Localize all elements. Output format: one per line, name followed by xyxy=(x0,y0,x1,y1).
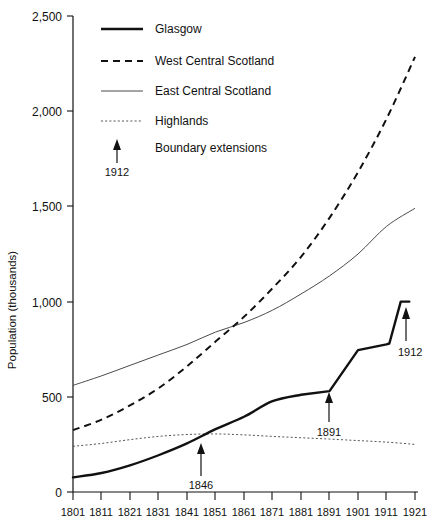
annotation-1846: 1846 xyxy=(189,443,213,491)
annotation-1912: 1912 xyxy=(398,307,422,358)
legend-item-east-central-scotland[interactable]: East Central Scotland xyxy=(101,84,271,98)
annotation-label-1846: 1846 xyxy=(189,479,213,491)
y-tick-label: 1,000 xyxy=(32,296,62,310)
chart-canvas: 2,500 2,000 1,500 1,000 500 0 Population… xyxy=(0,0,435,532)
legend-label-boundary-extensions: Boundary extensions xyxy=(155,141,267,155)
series-line-highlands xyxy=(73,434,415,446)
annotation-1891: 1891 xyxy=(317,392,341,438)
legend-label-west-central-scotland: West Central Scotland xyxy=(155,54,274,68)
x-tick-label: 1801 xyxy=(61,506,85,518)
y-tick-marks xyxy=(67,16,73,492)
legend-item-highlands[interactable]: Highlands xyxy=(101,114,208,128)
y-axis-title: Population (thousands) xyxy=(6,251,18,369)
y-tick-label: 1,500 xyxy=(32,200,62,214)
arrow-up-icon xyxy=(402,307,410,319)
x-tick-label: 1901 xyxy=(346,506,370,518)
x-tick-label: 1921 xyxy=(403,506,427,518)
legend-sub-label-1912: 1912 xyxy=(105,166,129,178)
legend-item-glasgow[interactable]: Glasgow xyxy=(101,22,202,36)
y-tick-labels: 2,500 2,000 1,500 1,000 500 0 xyxy=(32,10,62,500)
x-tick-label: 1841 xyxy=(175,506,199,518)
legend-label-east-central-scotland: East Central Scotland xyxy=(155,84,271,98)
arrow-up-icon xyxy=(197,443,205,454)
y-tick-label: 2,500 xyxy=(32,10,62,24)
y-tick-label: 500 xyxy=(42,391,62,405)
y-tick-label: 0 xyxy=(55,486,62,500)
x-tick-label: 1821 xyxy=(118,506,142,518)
x-tick-labels: 1801 1811 1821 1831 1841 1851 1861 1871 … xyxy=(61,506,427,518)
annotation-label-1891: 1891 xyxy=(317,426,341,438)
series-line-east-central-scotland xyxy=(73,208,415,385)
data-series-group xyxy=(73,57,415,477)
legend-label-highlands: Highlands xyxy=(155,114,208,128)
x-tick-label: 1911 xyxy=(374,506,398,518)
annotation-label-1912: 1912 xyxy=(398,346,422,358)
series-line-west-central-scotland xyxy=(73,57,415,430)
x-tick-label: 1891 xyxy=(317,506,341,518)
x-tick-label: 1871 xyxy=(260,506,284,518)
y-tick-label: 2,000 xyxy=(32,105,62,119)
arrow-up-icon xyxy=(325,392,333,403)
series-line-glasgow xyxy=(73,302,409,478)
x-tick-label: 1811 xyxy=(89,506,113,518)
x-tick-marks xyxy=(73,492,415,500)
legend-item-west-central-scotland[interactable]: West Central Scotland xyxy=(101,54,274,68)
x-tick-label: 1831 xyxy=(146,506,170,518)
legend-item-boundary-extensions[interactable]: 1912 Boundary extensions xyxy=(105,139,267,178)
chart-legend: Glasgow West Central Scotland East Centr… xyxy=(101,22,274,178)
arrow-up-icon xyxy=(113,139,121,150)
x-tick-label: 1881 xyxy=(289,506,313,518)
x-tick-label: 1851 xyxy=(203,506,227,518)
x-tick-label: 1861 xyxy=(232,506,256,518)
legend-label-glasgow: Glasgow xyxy=(155,22,202,36)
population-line-chart: 2,500 2,000 1,500 1,000 500 0 Population… xyxy=(0,0,435,532)
